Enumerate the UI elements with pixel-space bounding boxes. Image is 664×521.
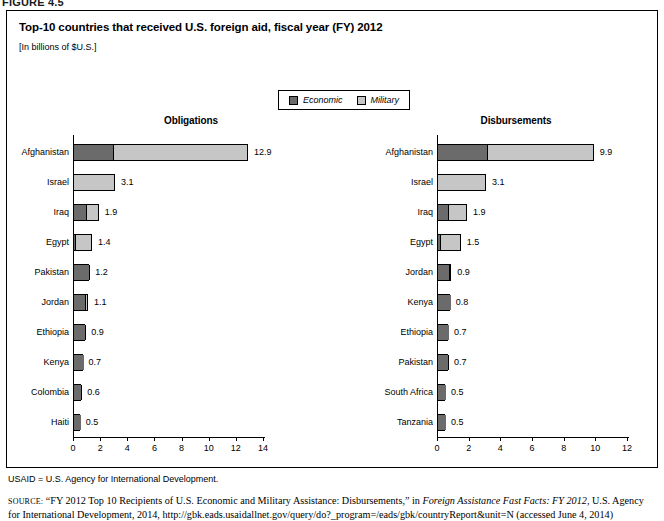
bar-segment-military <box>113 145 247 160</box>
bar-value-label: 3.1 <box>121 177 134 187</box>
legend-label-economic: Economic <box>303 95 343 105</box>
figure-panel: Top-10 countries that received U.S. fore… <box>6 10 658 468</box>
bar-area: 0.9 <box>437 257 657 287</box>
units-note: [In billions of $U.S.] <box>19 42 97 52</box>
stacked-bar[interactable] <box>437 414 445 431</box>
bar-row: Israel3.1 <box>337 167 657 197</box>
category-label: Pakistan <box>11 267 73 277</box>
category-label: Tanzania <box>337 417 437 427</box>
stacked-bar[interactable] <box>73 174 115 191</box>
bar-segment-economic <box>438 145 487 160</box>
bar-value-label: 1.9 <box>105 207 118 217</box>
x-axis-tick-label: 0 <box>70 443 75 453</box>
bar-segment-military <box>448 205 467 220</box>
stacked-bar[interactable] <box>437 264 451 281</box>
x-axis-tick-label: 8 <box>179 443 184 453</box>
bar-area: 1.1 <box>73 287 331 317</box>
bar-value-label: 0.9 <box>91 327 104 337</box>
x-axis-tick <box>263 437 264 441</box>
stacked-bar[interactable] <box>73 264 89 281</box>
x-axis-tick <box>127 437 128 441</box>
bar-segment-military <box>487 145 593 160</box>
x-axis-tick-label: 8 <box>561 443 566 453</box>
bar-row: Tanzania0.5 <box>337 407 657 437</box>
bar-row: Pakistan1.2 <box>11 257 331 287</box>
bar-row: Ethiopia0.7 <box>337 317 657 347</box>
plot-area-disbursements: Afghanistan9.9Israel3.1Iraq1.9Egypt1.5Jo… <box>337 135 657 463</box>
x-axis-tick <box>236 437 237 441</box>
stacked-bar[interactable] <box>73 324 85 341</box>
stacked-bar[interactable] <box>437 174 486 191</box>
category-label: South Africa <box>337 387 437 397</box>
category-label: Iraq <box>11 207 73 217</box>
category-label: Egypt <box>337 237 437 247</box>
x-axis-tick <box>182 437 183 441</box>
x-axis-tick-label: 4 <box>498 443 503 453</box>
bar-value-label: 12.9 <box>254 147 272 157</box>
bar-value-label: 1.2 <box>95 267 108 277</box>
category-label: Kenya <box>11 357 73 367</box>
x-axis-tick <box>564 437 565 441</box>
bar-segment-economic <box>74 385 81 400</box>
figure-label: FIGURE 4.5 <box>2 0 64 8</box>
bar-value-label: 0.7 <box>454 327 467 337</box>
bar-row: Afghanistan12.9 <box>11 137 331 167</box>
bar-area: 3.1 <box>73 167 331 197</box>
bar-row: Egypt1.4 <box>11 227 331 257</box>
bar-area: 0.5 <box>437 377 657 407</box>
stacked-bar[interactable] <box>73 414 80 431</box>
bar-area: 0.5 <box>437 407 657 437</box>
source-note: SOURCE: “FY 2012 Top 10 Recipients of U.… <box>8 494 658 521</box>
stacked-bar[interactable] <box>73 354 83 371</box>
bar-segment-economic <box>74 325 85 340</box>
bar-row: Haiti0.5 <box>11 407 331 437</box>
legend-label-military: Military <box>371 95 400 105</box>
chart-title-obligations: Obligations <box>11 115 331 126</box>
stacked-bar[interactable] <box>437 234 461 251</box>
legend-swatch-military-icon <box>357 96 366 105</box>
stacked-bar[interactable] <box>437 384 445 401</box>
chart-title-disbursements: Disbursements <box>337 115 657 126</box>
stacked-bar[interactable] <box>73 234 92 251</box>
bar-row: Jordan0.9 <box>337 257 657 287</box>
bar-area: 0.7 <box>437 317 657 347</box>
bar-segment-military <box>440 235 460 250</box>
stacked-bar[interactable] <box>437 324 448 341</box>
x-axis-tick-label: 12 <box>231 443 241 453</box>
bar-area: 0.8 <box>437 287 657 317</box>
bar-area: 12.9 <box>73 137 331 167</box>
legend-item-military: Military <box>357 95 400 105</box>
bar-area: 1.2 <box>73 257 331 287</box>
bar-area: 1.9 <box>73 197 331 227</box>
stacked-bar[interactable] <box>437 204 467 221</box>
bar-segment-military <box>81 385 82 400</box>
stacked-bar[interactable] <box>437 144 594 161</box>
legend-item-economic: Economic <box>289 95 343 105</box>
x-axis-tick-label: 6 <box>529 443 534 453</box>
stacked-bar[interactable] <box>437 294 450 311</box>
x-axis-tick <box>154 437 155 441</box>
x-axis-tick <box>500 437 501 441</box>
bar-value-label: 0.5 <box>451 417 464 427</box>
category-label: Ethiopia <box>11 327 73 337</box>
bar-area: 0.5 <box>73 407 331 437</box>
bar-area: 0.6 <box>73 377 331 407</box>
category-label: Haiti <box>11 417 73 427</box>
x-axis-tick <box>595 437 596 441</box>
bar-value-label: 0.5 <box>86 417 99 427</box>
stacked-bar[interactable] <box>73 144 248 161</box>
bar-row: Jordan1.1 <box>11 287 331 317</box>
stacked-bar[interactable] <box>437 354 448 371</box>
stacked-bar[interactable] <box>73 384 81 401</box>
bar-row: Iraq1.9 <box>11 197 331 227</box>
stacked-bar[interactable] <box>73 294 88 311</box>
figure-page: FIGURE 4.5 Top-10 countries that receive… <box>0 0 664 521</box>
category-label: Jordan <box>337 267 437 277</box>
x-axis-tick <box>437 437 438 441</box>
chart-disbursements: Disbursements Afghanistan9.9Israel3.1Ira… <box>337 115 657 463</box>
bar-rows-obligations: Afghanistan12.9Israel3.1Iraq1.9Egypt1.4P… <box>11 137 331 437</box>
stacked-bar[interactable] <box>73 204 99 221</box>
bar-segment-economic <box>438 355 448 370</box>
chart-legend: Economic Military <box>278 90 410 110</box>
bar-area: 1.9 <box>437 197 657 227</box>
